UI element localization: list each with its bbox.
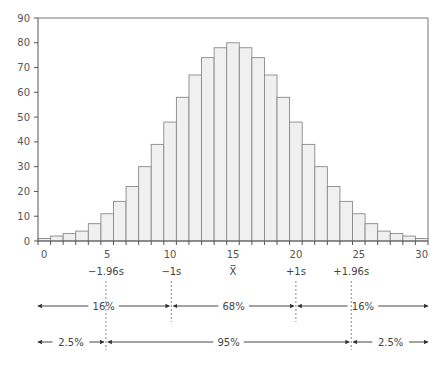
histogram-bar: [151, 144, 164, 241]
percentage-label: 68%: [223, 301, 245, 312]
x-tick-label: 25: [352, 249, 365, 260]
percentage-ranges: 16%68%16%2.5%95%2.5%: [38, 301, 428, 348]
y-tick-label: 20: [17, 186, 30, 197]
stat-marker-label: X̅: [230, 265, 237, 277]
histogram-bar: [126, 186, 139, 241]
x-axis: 051015202530: [38, 241, 428, 260]
histogram-bar: [239, 48, 252, 241]
stat-marker-label: +1s: [286, 266, 306, 277]
stat-marker-label: −1.96s: [88, 266, 124, 277]
x-tick-label: 30: [415, 249, 428, 260]
histogram-bar: [365, 224, 378, 241]
histogram-bar: [76, 231, 89, 241]
y-tick-label: 50: [17, 112, 30, 123]
histogram-bar: [227, 43, 240, 241]
y-tick-label: 10: [17, 211, 30, 222]
histogram-bar: [290, 122, 303, 241]
histogram-bar: [264, 75, 277, 241]
y-tick-label: 30: [17, 161, 30, 172]
histogram-bar: [390, 234, 403, 241]
histogram-bar: [214, 48, 227, 241]
x-tick-label: 10: [164, 249, 177, 260]
histogram-bars: [38, 43, 428, 241]
histogram-bar: [164, 122, 177, 241]
stat-marker-label: −1s: [161, 266, 181, 277]
histogram-bar: [378, 231, 391, 241]
histogram-bar: [139, 167, 152, 241]
percentage-label: 16%: [93, 301, 115, 312]
percentage-label: 2.5%: [378, 337, 403, 348]
histogram-bar: [63, 234, 76, 241]
x-tick-label: 0: [41, 249, 47, 260]
y-tick-label: 0: [24, 236, 30, 247]
percentage-label: 2.5%: [58, 337, 83, 348]
y-axis: 0102030405060708090: [17, 13, 38, 247]
histogram-bar: [113, 201, 126, 241]
histogram-bar: [189, 75, 202, 241]
histogram-bar: [277, 97, 290, 241]
y-tick-label: 70: [17, 62, 30, 73]
stat-marker-label: +1.96s: [333, 266, 369, 277]
histogram-bar: [101, 214, 114, 241]
histogram-bar: [252, 58, 265, 241]
histogram-bar: [315, 167, 328, 241]
x-tick-label: 15: [227, 249, 240, 260]
y-tick-label: 40: [17, 136, 30, 147]
percentage-label: 16%: [352, 301, 374, 312]
y-tick-label: 90: [17, 13, 30, 24]
percentage-label: 95%: [217, 337, 239, 348]
histogram-bar: [202, 58, 215, 241]
histogram-bar: [340, 201, 353, 241]
histogram-bar: [88, 224, 101, 241]
x-tick-label: 5: [104, 249, 110, 260]
histogram-bar: [51, 236, 64, 241]
histogram-bar: [327, 186, 340, 241]
histogram-bar: [403, 236, 416, 241]
y-tick-label: 80: [17, 37, 30, 48]
x-tick-label: 20: [290, 249, 303, 260]
histogram-bar: [353, 214, 366, 241]
y-tick-label: 60: [17, 87, 30, 98]
histogram-bar: [176, 97, 189, 241]
histogram-chart: 0102030405060708090 051015202530 −1.96s−…: [0, 0, 447, 365]
histogram-bar: [302, 144, 315, 241]
